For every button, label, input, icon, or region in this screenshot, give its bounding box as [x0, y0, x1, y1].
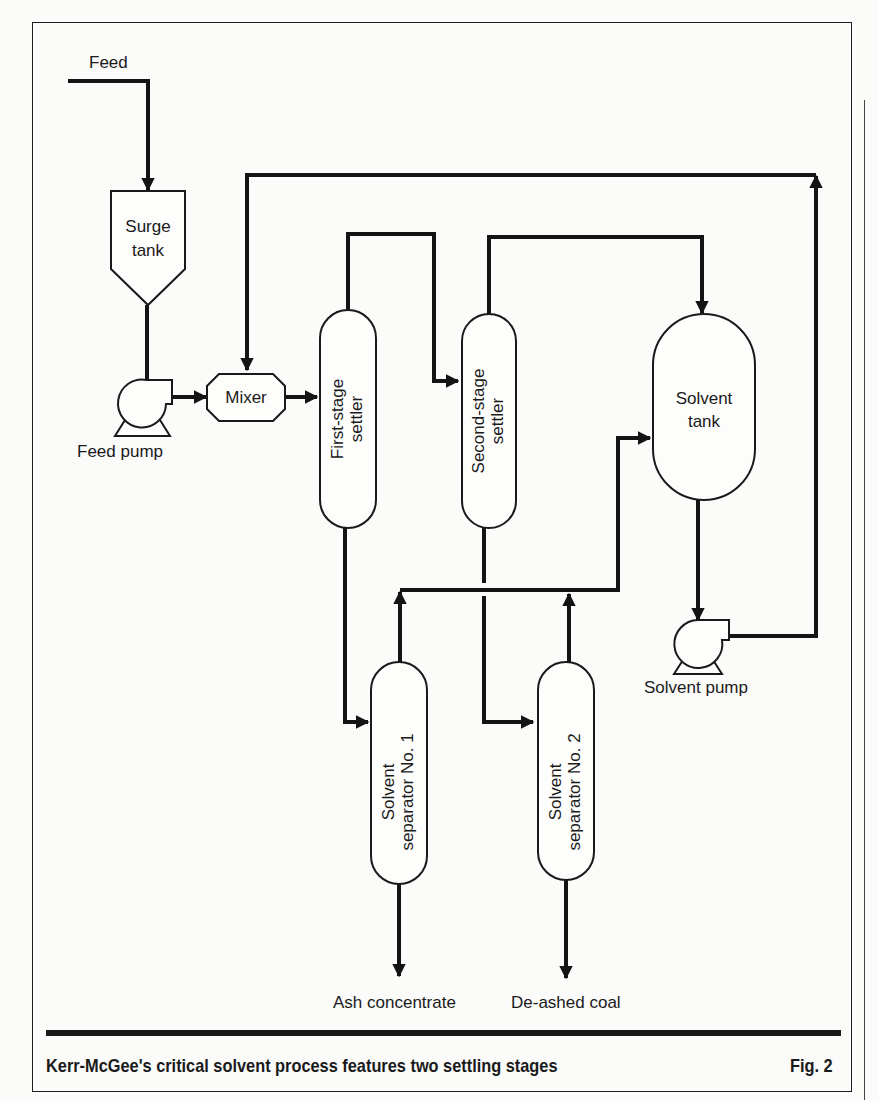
feed-pump-icon	[115, 379, 172, 436]
caption-divider	[46, 1030, 841, 1036]
figure-number: Fig. 2	[790, 1055, 833, 1077]
second-stage-settler-label-2: settler	[488, 398, 507, 445]
deashed-coal-label: De-ashed coal	[511, 993, 621, 1012]
surge-tank-label-1: Surge	[125, 217, 170, 236]
settler2-overflow-line	[489, 237, 702, 314]
caption-text: Kerr-McGee's critical solvent process fe…	[46, 1055, 558, 1077]
solvent-pump-icon	[674, 620, 729, 674]
solvent-tank-label-1: Solvent	[676, 389, 733, 408]
ash-concentrate-label: Ash concentrate	[333, 993, 456, 1012]
feed-pump-label: Feed pump	[77, 442, 163, 461]
figure-page: Feed Surge tank Feed pump Mixer First-st…	[0, 0, 879, 1101]
solvent-return-header	[400, 438, 650, 590]
feed-label: Feed	[89, 53, 128, 72]
separator-2-label-2: separator No. 2	[565, 733, 584, 850]
separator-2-label-1: Solvent	[546, 763, 565, 820]
mixer-label: Mixer	[225, 388, 267, 407]
surge-tank-label-2: tank	[132, 241, 165, 260]
separator-1-label-2: separator No. 1	[398, 733, 417, 850]
second-stage-settler-label-1: Second-stage	[469, 369, 488, 474]
process-flow-diagram: Feed Surge tank Feed pump Mixer First-st…	[0, 0, 879, 1101]
first-stage-settler-label-1: First-stage	[328, 379, 347, 459]
figure-caption: Kerr-McGee's critical solvent process fe…	[46, 1055, 841, 1085]
first-stage-settler-label-2: settler	[347, 396, 366, 443]
separator-1-label-1: Solvent	[379, 763, 398, 820]
feed-line	[68, 81, 148, 190]
solvent-tank-label-2: tank	[688, 412, 721, 431]
solvent-pump-label: Solvent pump	[644, 678, 748, 697]
